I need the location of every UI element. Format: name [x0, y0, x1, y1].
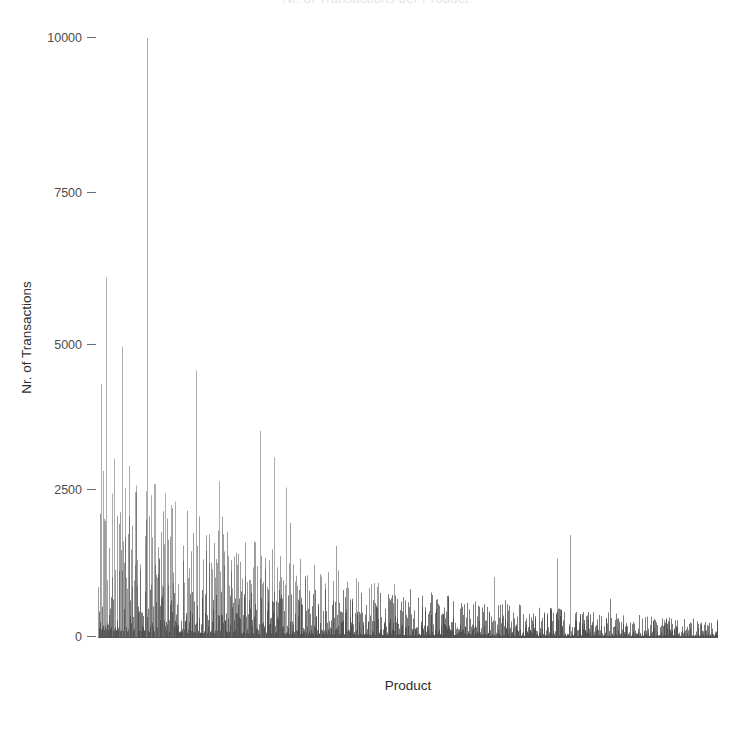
tick-mark-icon	[87, 192, 96, 193]
tick-mark-icon	[87, 636, 96, 637]
y-tick-label-0: 0	[75, 630, 82, 644]
y-tick-label-2500: 2500	[54, 483, 82, 497]
y-tick-10000: 10000	[4, 31, 96, 45]
y-tick-2500: 2500	[4, 483, 96, 497]
tick-mark-icon	[87, 489, 96, 490]
y-tick-7500: 7500	[4, 186, 96, 200]
y-axis-ticks: 10000 7500 5000 2500 0	[0, 0, 96, 729]
y-tick-label-10000: 10000	[47, 31, 82, 45]
y-tick-0: 0	[4, 630, 96, 644]
tick-mark-icon	[87, 37, 96, 38]
chart-title: Nr. of Transactions per Product	[0, 0, 751, 3]
chart-figure: Nr. of Transactions per Product Nr. of T…	[0, 0, 751, 729]
transactions-spike-series	[98, 30, 718, 645]
y-tick-5000: 5000	[4, 338, 96, 352]
y-tick-label-7500: 7500	[54, 186, 82, 200]
y-tick-label-5000: 5000	[54, 338, 82, 352]
plot-panel	[98, 30, 718, 645]
tick-mark-icon	[87, 344, 96, 345]
x-axis-title: Product	[98, 678, 718, 693]
